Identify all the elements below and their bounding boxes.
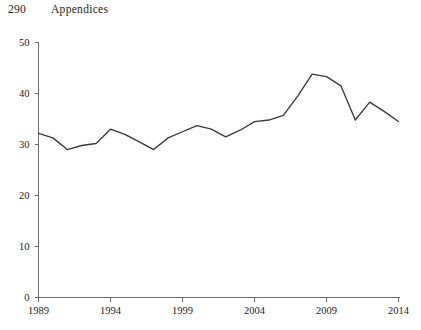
chart-canvas: 01020304050 198919941999200420092014 [0,26,421,330]
data-series [39,74,399,149]
x-axis: 198919941999200420092014 [28,298,410,316]
y-tick-label: 0 [24,292,29,303]
series-line [39,74,399,149]
y-tick-label: 20 [19,190,30,201]
running-head: Appendices [51,3,108,15]
x-tick-label: 1999 [172,305,193,316]
x-tick-label: 1989 [28,305,49,316]
y-tick-label: 40 [19,88,30,99]
x-tick-label: 1994 [100,305,122,316]
x-tick-label: 2004 [244,305,266,316]
y-tick-label: 10 [19,241,30,252]
y-tick-label: 50 [19,37,30,48]
x-tick-label: 2014 [388,305,410,316]
y-axis: 01020304050 [19,37,39,303]
y-tick-label: 30 [19,139,30,150]
x-tick-label: 2009 [316,305,337,316]
page-number: 290 [8,3,26,15]
line-chart-figure: 01020304050 198919941999200420092014 [0,26,421,330]
page-header: 290 Appendices [0,0,421,26]
